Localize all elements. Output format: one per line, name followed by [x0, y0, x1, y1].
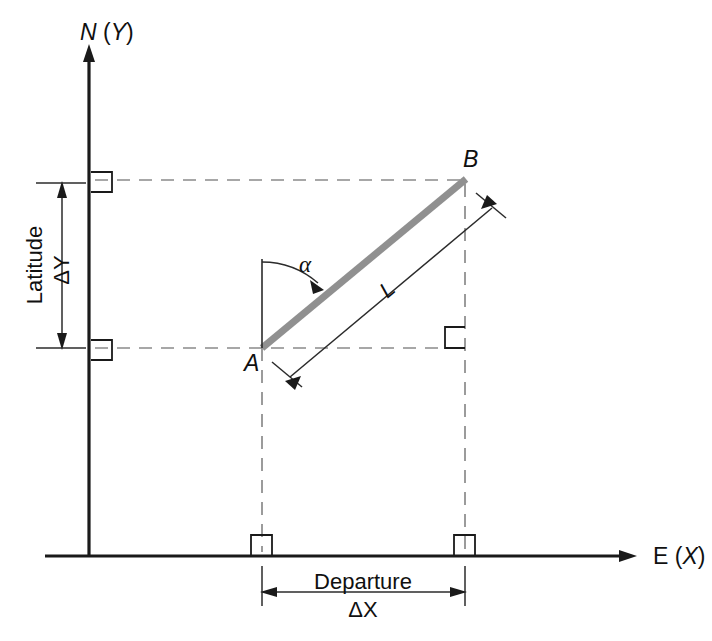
right-angle-mark-y-top	[91, 172, 112, 192]
right-angle-mark-y-bottom	[91, 340, 112, 360]
y-axis-label-primary: N	[80, 19, 97, 45]
projection-lines	[95, 180, 465, 552]
latitude-dimension-group: Latitude ΔY	[22, 181, 86, 350]
length-arrowhead-b	[481, 195, 497, 209]
right-angle-marks	[91, 172, 475, 555]
vector-ab-group	[262, 179, 466, 348]
x-axis-label-var: X	[681, 543, 699, 569]
length-arrowhead-a	[285, 376, 301, 390]
point-label-b: B	[463, 146, 478, 172]
survey-diagram: L Latitude ΔY Departure	[0, 0, 712, 641]
x-axis-arrowhead	[619, 550, 637, 562]
departure-label: Departure	[314, 569, 412, 594]
y-axis-label: N (Y)	[80, 19, 134, 45]
departure-dimension-group: Departure ΔX	[260, 566, 467, 622]
diagram-canvas: L Latitude ΔY Departure	[0, 0, 712, 641]
departure-delta-label: ΔX	[348, 597, 378, 622]
vector-line-ab	[262, 179, 466, 348]
point-label-a: A	[242, 350, 259, 376]
y-axis-arrowhead	[83, 44, 95, 62]
axis-group	[45, 44, 637, 562]
angle-label-alpha: α	[299, 252, 312, 277]
length-dimension-group: L	[272, 193, 506, 390]
latitude-label: Latitude	[22, 226, 47, 304]
x-axis-label-primary: E	[653, 543, 668, 569]
x-axis-label: E (X)	[653, 543, 705, 569]
right-angle-mark-corner-b	[445, 327, 465, 348]
length-label: L	[374, 276, 399, 303]
latitude-delta-label: ΔY	[49, 255, 74, 285]
